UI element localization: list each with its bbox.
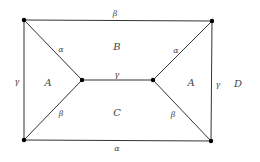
label-edge-bottom: α [114,144,120,153]
vertex-bottom-left [22,138,26,142]
vertex-inner-left [80,78,84,82]
vertex-top-left [22,18,26,22]
label-region-left: A [43,77,51,88]
edge-upper-left-diag [24,20,82,80]
label-region-bottom: C [113,107,121,118]
vertex-inner-right [151,78,155,82]
label-edge-upper-right: α [173,46,179,55]
label-edge-lower-left: β [58,109,64,118]
vertex-top-right [210,19,214,23]
vertex-bottom-right [209,139,213,143]
label-edge-left: γ [15,77,20,86]
graph-diagram: β α γ γ γ α α β β B C A A D [0,0,260,162]
edge-lower-right-diag [153,80,211,141]
edge-bottom [24,140,211,141]
label-region-top: B [112,41,120,52]
edge-upper-right-diag [153,21,212,80]
label-edge-lower-right: β [170,110,176,119]
label-edge-middle: γ [115,70,120,79]
label-edge-top: β [112,9,118,18]
label-region-outer: D [233,78,242,89]
edge-right [211,21,212,141]
label-region-right: A [186,77,194,88]
label-edge-upper-left: α [58,45,64,54]
edge-lower-left-diag [24,80,82,140]
label-edge-right: γ [216,80,221,89]
edge-top [24,20,212,21]
